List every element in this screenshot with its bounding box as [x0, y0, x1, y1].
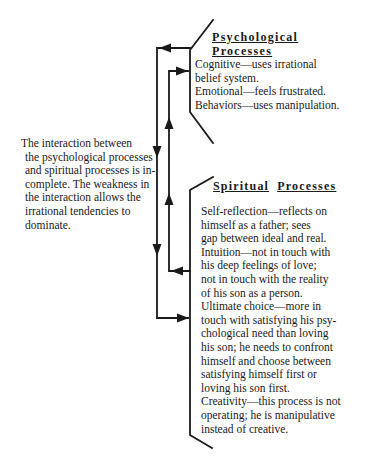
- spiritual-line: chological need than loving: [201, 327, 341, 341]
- psychological-heading-line2: Processes: [212, 44, 298, 58]
- inner-flow-line: [169, 71, 190, 271]
- interaction-note-line: the interaction allows the: [21, 191, 155, 205]
- arrow-up-icon: [165, 193, 174, 205]
- spiritual-line: not in touch with the reality: [201, 273, 341, 287]
- spiritual-heading: SpiritualProcesses: [213, 179, 336, 193]
- interaction-note-line: complete. The weakness in: [21, 178, 155, 192]
- spiritual-line: touch with satisfying his psy-: [201, 314, 341, 328]
- psychological-line: Behaviors—uses manipulation.: [195, 99, 339, 113]
- spiritual-line: of his son as a person.: [201, 287, 341, 301]
- psychological-line: Emotional—feels frustrated.: [195, 85, 339, 99]
- outer-flow-line: [157, 48, 190, 318]
- spiritual-line: himself and choose between: [201, 355, 341, 369]
- spiritual-description: Self-reflection—reflects on himself as a…: [201, 205, 341, 436]
- spiritual-line: his son; he needs to confront: [201, 341, 341, 355]
- arrow-right-icon: [176, 67, 188, 76]
- spiritual-line: operating; he is manipulative: [201, 409, 341, 423]
- arrow-left-icon: [171, 267, 183, 276]
- interaction-note-line: The interaction between: [21, 137, 155, 151]
- spiritual-line: gap between ideal and real.: [201, 232, 341, 246]
- spiritual-heading-word2: Processes: [277, 179, 336, 193]
- spiritual-line: loving his son first.: [201, 382, 341, 396]
- interaction-note-line: dominate.: [21, 219, 155, 233]
- spiritual-line: Creativity—this process is not: [201, 395, 341, 409]
- psychological-description: Cognitive—uses irrational belief system.…: [195, 58, 339, 112]
- spiritual-line: Self-reflection—reflects on: [201, 205, 341, 219]
- interaction-note-line: irrational tendencies to: [21, 205, 155, 219]
- spiritual-line: Intuition—not in touch with: [201, 246, 341, 260]
- psychological-line: Cognitive—uses irrational: [195, 58, 339, 72]
- spiritual-line: Ultimate choice—more in: [201, 300, 341, 314]
- psychological-heading-line1: Psychological: [212, 30, 298, 44]
- arrow-left-icon: [159, 44, 171, 53]
- arrow-up-icon: [165, 117, 174, 129]
- psychological-heading: Psychological Processes: [212, 30, 298, 58]
- spiritual-line: instead of creative.: [201, 423, 341, 437]
- arrow-down-icon: [153, 244, 162, 256]
- arrow-right-icon: [177, 314, 189, 323]
- spiritual-line: satisfying himself first or: [201, 368, 341, 382]
- spiritual-heading-word1: Spiritual: [213, 179, 269, 193]
- interaction-note-line: the psychological processes: [21, 151, 155, 165]
- psychological-line: belief system.: [195, 72, 339, 86]
- spiritual-line: his deep feelings of love;: [201, 259, 341, 273]
- spiritual-line: himself as a father; sees: [201, 219, 341, 233]
- interaction-note: The interaction between the psychologica…: [21, 137, 155, 232]
- interaction-note-line: and spiritual processes is in-: [21, 164, 155, 178]
